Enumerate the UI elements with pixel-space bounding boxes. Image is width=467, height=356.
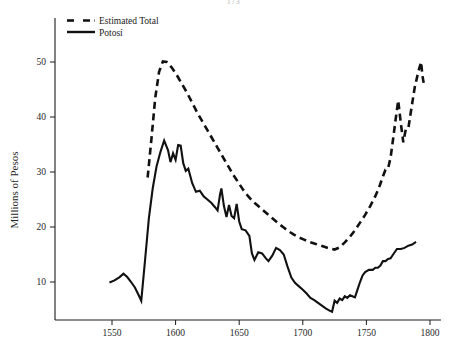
y-tick-label: 10 xyxy=(37,277,47,287)
x-tick-label: 1700 xyxy=(293,328,312,338)
x-tick-label: 1800 xyxy=(421,328,440,338)
line-chart: 1020304050 155016001650170017501800 Mill… xyxy=(0,0,467,356)
y-tick-label: 30 xyxy=(37,167,47,177)
x-axis-ticks: 155016001650170017501800 xyxy=(103,320,440,338)
series-line-potosi xyxy=(109,141,416,312)
x-tick-label: 1600 xyxy=(166,328,185,338)
y-axis-ticks: 1020304050 xyxy=(37,57,56,287)
x-tick-label: 1650 xyxy=(230,328,249,338)
y-axis-title: Millions of Pesos xyxy=(8,151,20,228)
legend-label-potosi: Potosí xyxy=(99,28,123,38)
figure-root: 173 1020304050 155016001650170017501800 … xyxy=(0,0,467,356)
y-tick-label: 40 xyxy=(37,112,47,122)
series-line-estimated-total xyxy=(148,61,424,249)
y-tick-label: 20 xyxy=(37,222,47,232)
y-tick-label: 50 xyxy=(37,57,47,67)
x-tick-label: 1750 xyxy=(357,328,376,338)
legend-label-estimated-total: Estimated Total xyxy=(99,16,159,26)
x-tick-label: 1550 xyxy=(103,328,122,338)
legend: Estimated Total Potosí xyxy=(67,16,159,38)
